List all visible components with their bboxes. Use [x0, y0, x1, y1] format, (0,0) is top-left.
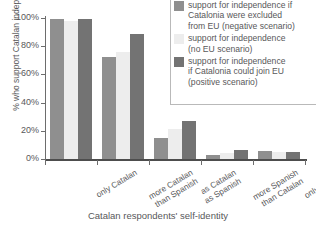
bar-group: [50, 18, 92, 159]
x-tick-mark: [305, 160, 306, 165]
bar: [220, 153, 234, 159]
x-category-label: only Catalan: [95, 168, 139, 200]
y-axis-title-wrap: % who support Catalan independence: [0, 0, 24, 160]
legend-label-line: Catalonia were excluded: [188, 10, 295, 20]
y-tick-label: 100%: [0, 12, 39, 22]
bar: [168, 129, 182, 159]
legend-label-line: support for independence: [188, 33, 285, 43]
bar: [102, 57, 116, 159]
y-tick-label: 60%: [0, 68, 39, 78]
y-tick-label: 40%: [0, 97, 39, 107]
bar-chart: % who support Catalan independence 0%20%…: [0, 0, 316, 229]
bar: [116, 52, 130, 159]
legend-label-line: (positive scenario): [188, 77, 285, 87]
x-category-label: as Catalanas Spanish: [198, 168, 243, 205]
chart-legend: support for independence ifCatalonia wer…: [170, 0, 316, 105]
bar: [64, 21, 78, 159]
bar: [234, 150, 248, 159]
bar-group: [102, 18, 144, 159]
x-tick-mark: [149, 160, 150, 165]
bar: [272, 152, 286, 159]
legend-label: support for independence ifCatalonia wer…: [188, 0, 295, 31]
legend-item: support for independenceif Catalonia cou…: [174, 56, 316, 87]
bar: [50, 19, 64, 159]
legend-color-swatch: [174, 34, 184, 44]
legend-color-swatch: [174, 57, 184, 67]
y-tick-mark: [41, 103, 46, 104]
legend-label-line: support for independence: [188, 56, 285, 66]
x-category-label-line: only Catalan: [95, 168, 139, 200]
bar: [182, 121, 196, 159]
y-tick-mark: [41, 46, 46, 47]
y-tick-label: 80%: [0, 40, 39, 50]
legend-label-line: (no EU scenario): [188, 44, 285, 54]
bar: [154, 138, 168, 159]
legend-item-list: support for independence ifCatalonia wer…: [174, 0, 316, 87]
y-tick-label: 0%: [0, 153, 39, 163]
legend-label-line: if Catalonia could join EU: [188, 66, 285, 76]
x-axis-line: [45, 159, 307, 161]
legend-label-line: from EU (negative scenario): [188, 21, 295, 31]
bar: [286, 152, 300, 159]
y-axis-line: [45, 16, 46, 161]
bar: [78, 19, 92, 159]
bar: [130, 34, 144, 159]
legend-item: support for independence(no EU scenario): [174, 33, 316, 54]
legend-item: support for independence ifCatalonia wer…: [174, 0, 316, 31]
x-tick-mark: [97, 160, 98, 165]
legend-color-swatch: [174, 1, 184, 11]
x-category-label: more Catalanthan Spanish: [147, 168, 199, 210]
y-tick-mark: [41, 18, 46, 19]
legend-label: support for independence(no EU scenario): [188, 33, 285, 54]
x-category-label: more Spanishthan Catalan: [251, 168, 305, 211]
legend-label-line: support for independence if: [188, 0, 295, 10]
x-tick-mark: [201, 160, 202, 165]
y-tick-mark: [41, 74, 46, 75]
y-tick-label: 20%: [0, 125, 39, 135]
legend-label: support for independenceif Catalonia cou…: [188, 56, 285, 87]
x-tick-mark: [45, 160, 46, 165]
bar: [258, 151, 272, 159]
y-tick-mark: [41, 131, 46, 132]
x-axis-title: Catalan respondents' self-identity: [0, 210, 316, 221]
bar: [206, 155, 220, 159]
x-tick-mark: [253, 160, 254, 165]
